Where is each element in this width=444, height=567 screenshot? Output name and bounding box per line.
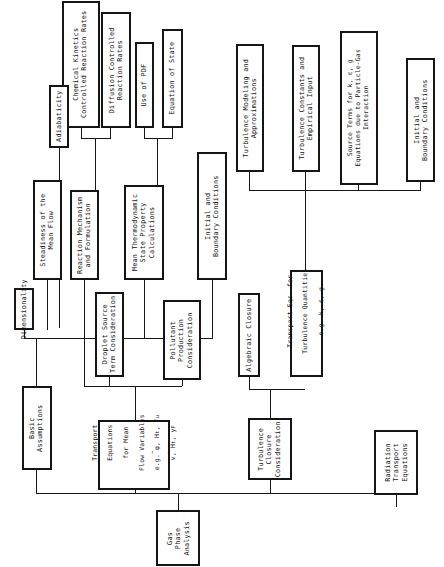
node-droplet-source-label: Droplet Source Term Consideration [101,296,118,373]
transport-mean-line5-a: e.g. φ, H [153,434,161,470]
flowchart-canvas: Chemical Kinetics Controlled Reaction Ra… [0,0,444,567]
node-turbulence-closure[interactable]: Turbulence Closure Consideration [248,418,292,480]
node-use-of-pdf-label: Use of PDF [140,64,148,107]
node-dimensionality-label: Dimensionality [20,279,28,339]
node-algebraic-closure-label: Algebraic Closure [245,299,253,372]
transport-mean-line5: e.g. φ, Ht, fu [153,415,161,470]
node-reaction-mechanism[interactable]: Reaction Mechanism and Formulation [70,190,99,280]
edge-mean-bus-left-v [84,338,85,386]
edge-steadiness-down [47,280,48,330]
edge-basic-bus-down [36,338,37,386]
edge-droplet-down [109,377,110,386]
edge-mechanism-down [84,280,85,338]
node-diffusion-controlled[interactable]: Diffusion Controlled Reaction Rates [101,12,131,128]
edge-initial-bc-left-down [212,280,213,338]
node-mean-thermodynamic-label: Mean Thermodynamic State Property Calcul… [132,194,157,271]
node-source-terms[interactable]: Source Terms for k, ε, g Equations due t… [340,31,378,185]
node-turbulence-modeling-label: Turbulence Modeling and Approximations [242,59,259,158]
edge-basic-bus [24,338,84,339]
edge-algebraic-down [249,377,250,389]
transport-mean-line6: v, Ht, yF [168,425,176,460]
transport-mean-line6-b: , y [168,429,176,441]
edge-radiation-down [396,495,397,507]
node-radiation-transport-label: Radiation Transport Equations [384,443,409,482]
transport-mean-line5-b: , f [153,419,161,431]
node-diffusion-controlled-label: Diffusion Controlled Reaction Rates [108,27,125,113]
node-equation-of-state[interactable]: Equation of State [162,29,183,128]
node-adiabaticity-label: Adiabaticity [55,91,63,143]
node-pollutant-production[interactable]: Pollutant Production Consideration [163,300,201,380]
edge-turb-modeling-stub [249,172,250,190]
node-initial-bc-right-label: Initial and Boundary Conditions [412,79,429,161]
node-transport-eqs-mean[interactable]: Transport Equations for Mean Flow Variab… [98,420,170,490]
node-chemical-kinetics-label: Chemical Kinetics Controlled Reaction Ra… [73,11,90,118]
node-radiation-transport[interactable]: Radiation Transport Equations [374,430,418,495]
edge-turb-constants-stub [305,172,306,190]
node-use-of-pdf[interactable]: Use of PDF [135,42,154,128]
node-transport-eqs-turbulence[interactable]: Transport Eqs. for Turbulence Quantities… [290,270,323,377]
node-turbulence-constants-label: Turbulence Constants and Empirical Input [298,57,315,160]
node-turbulence-closure-label: Turbulence Closure Consideration [258,421,283,477]
node-dimensionality[interactable]: Dimensionality [14,288,34,330]
edge-thermo-bus-down [157,138,158,185]
edge-reaction-bus [81,138,111,139]
node-mean-thermodynamic[interactable]: Mean Thermodynamic State Property Calcul… [124,185,164,280]
edge-thermo-bus [144,138,173,139]
node-turbulence-constants[interactable]: Turbulence Constants and Empirical Input [292,45,320,172]
edge-closure-bus-down [270,389,271,418]
transport-mean-line2: Equations [106,425,114,461]
node-adiabaticity[interactable]: Adiabaticity [49,85,69,148]
node-steadiness[interactable]: Steadiness of the Mean Flow [33,180,62,280]
edge-turb-closure-down [270,480,271,493]
node-gas-phase-analysis-label: Gas Phase Analysis [166,521,191,555]
node-source-terms-label: Source Terms for k, ε, g Equations due t… [347,49,370,166]
transport-mean-line1: Transport [90,425,98,461]
edge-main-bus-down [178,493,179,510]
edge-basic-assumptions-down [36,470,37,493]
transport-mean-line5-sub2: u [154,415,160,418]
edge-reaction-bus-down [95,138,96,190]
transport-turb-line3: e.g. k, ε, g [317,287,325,336]
node-basic-assumptions-label: Basic Assumptions [29,404,46,451]
edge-mean-bus-lower [84,386,182,387]
transport-turb-line1: Transport Eqs. for [286,275,294,348]
edge-pollutant-down [182,380,183,386]
edge-closure-bus [249,389,305,390]
edge-chemical-kinetics-stub [81,128,82,138]
transport-mean-line4: Flow Variables [137,415,145,472]
transport-mean-line6-sub2: F [170,425,176,428]
node-steadiness-label: Steadiness of the Mean Flow [39,194,56,267]
edge-turb-bus [249,190,421,191]
transport-mean-line6-a: v, H [168,444,176,460]
node-pollutant-production-label: Pollutant Production Consideration [170,312,195,368]
node-initial-bc-right[interactable]: Initial and Boundary Conditions [406,58,435,182]
transport-turb-line2: Turbulence Quantities [302,269,310,354]
node-turbulence-modeling[interactable]: Turbulence Modeling and Approximations [236,44,264,172]
node-algebraic-closure[interactable]: Algebraic Closure [238,293,260,377]
node-initial-bc-left-label: Initial and Boundary Conditions [204,175,221,257]
node-droplet-source[interactable]: Droplet Source Term Consideration [95,292,124,377]
node-gas-phase-analysis[interactable]: Gas Phase Analysis [156,510,200,566]
edge-diffusion-stub [110,128,111,138]
edge-eos-stub [172,128,173,138]
edge-initial-bc-right-stub [420,182,421,190]
edge-thermo-down [144,280,145,338]
node-equation-of-state-label: Equation of State [168,42,176,115]
edge-pdf-stub [144,128,145,138]
node-initial-bc-left[interactable]: Initial and Boundary Conditions [197,152,227,280]
node-transport-eqs-turbulence-label: Transport Eqs. for Turbulence Quantities… [279,269,334,378]
edge-turb-bus-down [305,190,306,270]
node-transport-eqs-mean-label: Transport Equations for Mean Flow Variab… [83,415,185,496]
transport-mean-line3: for Mean [121,427,129,459]
node-basic-assumptions[interactable]: Basic Assumptions [22,386,52,470]
node-reaction-mechanism-label: Reaction Mechanism and Formulation [76,196,93,273]
